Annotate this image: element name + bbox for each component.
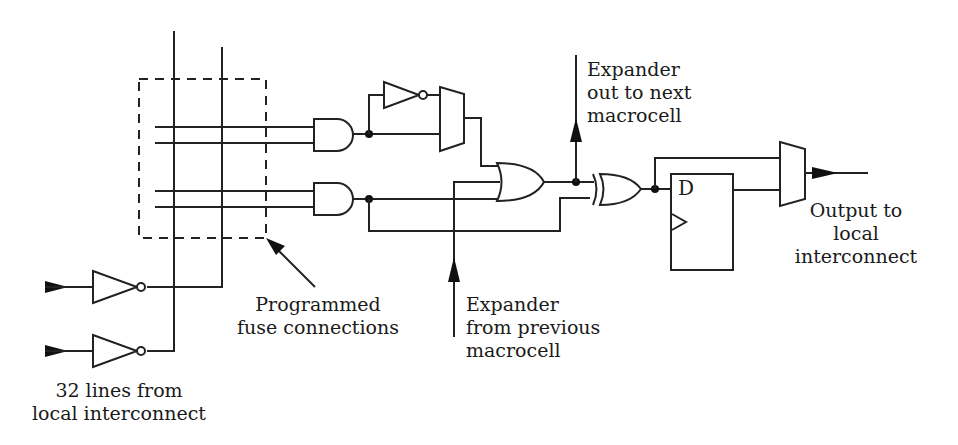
output-label: Output to local interconnect <box>793 199 919 268</box>
flipflop-d-label: D <box>678 177 694 200</box>
polarity-mux <box>440 87 464 151</box>
expander-out-line-1: Expander <box>587 58 691 81</box>
fuse-label-line-2: fuse connections <box>226 316 410 339</box>
input-lines-label-line-1: 32 lines from <box>24 379 214 402</box>
fuse-label: Programmed fuse connections <box>226 293 410 339</box>
expander-out-line-2: out to next <box>587 81 691 104</box>
input-lines-label-line-2: local interconnect <box>24 402 214 425</box>
input-inverter-1 <box>45 271 145 303</box>
or-gate <box>497 163 544 201</box>
expander-in-line-2: from previous <box>466 316 600 339</box>
fuse-pointer-arrow <box>266 238 315 287</box>
product-term-lines <box>155 127 314 207</box>
input-inverter-2 <box>45 335 145 367</box>
xor-gate <box>593 174 641 205</box>
input-lines-label: 32 lines from local interconnect <box>24 379 214 425</box>
expander-out-line-3: macrocell <box>587 104 691 127</box>
output-label-line-2: local <box>793 222 919 245</box>
output-label-line-1: Output to <box>793 199 919 222</box>
expander-out-label: Expander out to next macrocell <box>587 58 691 127</box>
expander-in-line-1: Expander <box>466 293 600 316</box>
output-mux <box>780 142 805 206</box>
polarity-inverter <box>384 82 440 108</box>
expander-in-label: Expander from previous macrocell <box>466 293 600 362</box>
fuse-label-line-1: Programmed <box>226 293 410 316</box>
and-gate-2 <box>314 183 353 215</box>
and-gate-1 <box>314 119 353 151</box>
output-arrow <box>805 167 868 179</box>
fuse-array-box <box>139 79 266 238</box>
output-label-line-3: interconnect <box>793 245 919 268</box>
expander-in-line-3: macrocell <box>466 339 600 362</box>
expander-out-line <box>570 55 582 182</box>
